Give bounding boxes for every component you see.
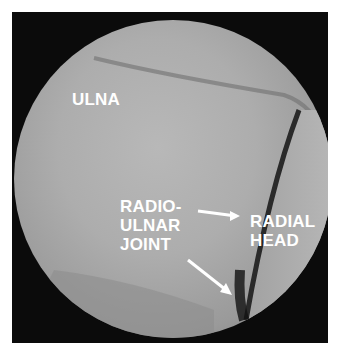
label-line: HEAD	[250, 231, 315, 250]
anatomy-shading	[14, 20, 328, 338]
label-ulna: ULNA	[72, 90, 120, 109]
label-line: JOINT	[120, 235, 182, 254]
label-radial-head: RADIAL HEAD	[250, 212, 315, 250]
label-radioulnar-joint: RADIO- ULNAR JOINT	[120, 197, 182, 254]
label-line: RADIO-	[120, 197, 182, 216]
scope-field	[14, 20, 328, 338]
label-line: ULNAR	[120, 216, 182, 235]
arthroscopy-image-frame: ULNA RADIO- ULNAR JOINT RADIAL HEAD	[12, 12, 328, 343]
label-line: RADIAL	[250, 212, 315, 231]
